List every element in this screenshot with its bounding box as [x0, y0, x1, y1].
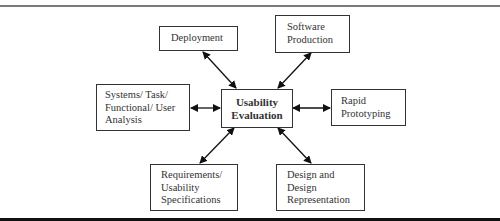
center-label: Usability Evaluation	[231, 96, 282, 122]
node-label: Design and Design Representation	[287, 169, 350, 205]
node-label: Requirements/ Usability Specifications	[161, 169, 222, 205]
node-deployment: Deployment	[159, 26, 238, 51]
node-label: Rapid Prototyping	[341, 95, 391, 119]
bottom-rule	[0, 218, 500, 221]
node-rapid-prototyping: Rapid Prototyping	[331, 89, 406, 126]
arrow-design	[278, 128, 311, 163]
node-requirements: Requirements/ Usability Specifications	[150, 164, 238, 211]
arrow-software-production	[278, 53, 311, 88]
node-label: Systems/ Task/ Functional/ User Analysis	[105, 89, 175, 125]
node-design: Design and Design Representation	[276, 164, 365, 211]
node-systems-analysis: Systems/ Task/ Functional/ User Analysis	[96, 84, 190, 131]
arrow-requirements	[200, 128, 234, 163]
node-label: Deployment	[171, 32, 223, 43]
arrow-deployment	[203, 52, 236, 88]
node-software-production: Software Production	[275, 15, 350, 53]
node-usability-evaluation: Usability Evaluation	[221, 89, 293, 128]
node-label: Software Production	[287, 21, 333, 45]
